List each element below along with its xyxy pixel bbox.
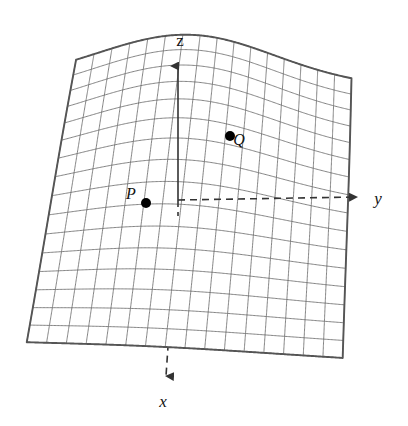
y-axis-label: y bbox=[372, 189, 382, 208]
x-axis-label: x bbox=[158, 392, 167, 411]
point-p-marker bbox=[141, 198, 151, 208]
figure-container: x z y P Q bbox=[0, 0, 408, 426]
z-axis-label: z bbox=[176, 31, 184, 50]
point-q-label: Q bbox=[233, 131, 245, 148]
point-p-label: P bbox=[125, 185, 136, 202]
surface-plot-figure: x z y P Q bbox=[0, 0, 408, 426]
